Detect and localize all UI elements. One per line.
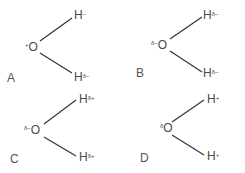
option-label-d: D (140, 152, 149, 164)
oxygen-atom-d: δO (160, 122, 173, 136)
hydrogen-top-d: H+ (207, 93, 219, 105)
oxygen-atom-b: δ−O (151, 39, 167, 53)
oxygen-atom-a: +O (25, 41, 38, 55)
bond-d-top (172, 100, 204, 122)
hydrogen-bottom-d: H+ (207, 150, 219, 162)
oxygen-atom-c: δ−O (24, 124, 40, 138)
option-label-c: C (10, 153, 19, 165)
hydrogen-top-b: Hδ− (203, 9, 219, 21)
hydrogen-bottom-a: Hδ− (74, 71, 90, 83)
bond-c-bottom (44, 137, 76, 156)
hydrogen-top-a: H− (74, 9, 86, 21)
option-label-a: A (7, 72, 15, 84)
hydrogen-bottom-b: Hδ− (203, 67, 219, 79)
hydrogen-top-c: Hδ+ (79, 93, 95, 105)
bond-c-top (44, 100, 76, 124)
option-label-b: B (136, 67, 144, 79)
hydrogen-bottom-c: Hδ+ (79, 151, 95, 163)
bond-a-bottom (40, 53, 72, 73)
bond-d-bottom (172, 135, 204, 155)
bond-lines (0, 0, 245, 173)
bond-a-top (40, 18, 72, 41)
bond-b-bottom (170, 51, 202, 72)
bond-b-top (170, 17, 202, 39)
